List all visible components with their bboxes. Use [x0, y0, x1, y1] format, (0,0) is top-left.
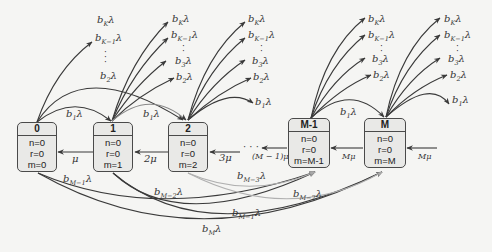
state-m: m=1	[94, 159, 132, 170]
label-b3-lambda: b3λ	[448, 53, 465, 67]
label-bK1-lambda: bK−1λ	[95, 32, 122, 46]
state-r: r=0	[169, 148, 207, 159]
label-bK-lambda: bKλ	[368, 13, 386, 27]
state-m: m=M	[365, 155, 405, 166]
state-n: n=0	[94, 137, 132, 148]
label-bK-lambda: bKλ	[444, 13, 462, 27]
label-b1-lambda: b1λ	[452, 94, 469, 108]
state-n: n=0	[365, 133, 405, 144]
label-M-1-mu: (M − 1)μ	[252, 152, 289, 161]
label-bM-2-lambda: bM−2λ	[154, 186, 183, 200]
label-b2-lambda: b2λ	[373, 69, 390, 83]
arrow-0-to-2	[37, 88, 183, 122]
state-r: r=0	[365, 144, 405, 155]
horizontal-ellipsis: · · ·	[243, 141, 259, 152]
label-b3-lambda: b3λ	[175, 55, 192, 69]
vertical-ellipsis: ··	[260, 44, 263, 54]
label-b3-lambda: b3λ	[372, 53, 389, 67]
state-m: m=M-1	[289, 155, 329, 166]
state-r: r=0	[289, 144, 329, 155]
label-b2-lambda: b2λ	[100, 70, 117, 84]
label-mu: μ	[72, 153, 79, 164]
label-3mu: 3μ	[219, 152, 232, 163]
state-m: m=0	[18, 159, 56, 170]
label-M-mu: Mμ	[342, 152, 355, 161]
label-bM-3-lambda: bM−3λ	[237, 170, 266, 184]
state-title: 0	[18, 123, 56, 136]
label-M-mu-incoming: Mμ	[418, 152, 431, 161]
label-bK-lambda: bKλ	[248, 13, 266, 27]
label-bK-lambda: bKλ	[172, 13, 190, 27]
state-r: r=0	[94, 148, 132, 159]
state-n: n=0	[289, 133, 329, 144]
vertical-ellipsis: ···	[104, 50, 107, 65]
state-0: 0 n=0 r=0 m=0	[17, 122, 57, 172]
arrow-0-bK1	[37, 42, 92, 122]
markov-chain-diagram: 0 n=0 r=0 m=0 1 n=0 r=0 m=1 2 n=0 r=0 m=…	[0, 0, 492, 252]
label-bK-lambda: bKλ	[97, 14, 115, 28]
state-2: 2 n=0 r=0 m=2	[168, 122, 208, 172]
state-n: n=0	[169, 137, 207, 148]
label-b1-lambda: b1λ	[255, 96, 272, 110]
label-b2-lambda: b2λ	[450, 69, 467, 83]
state-n: n=0	[18, 137, 56, 148]
label-b2-lambda: b2λ	[176, 71, 193, 85]
state-M-1: M-1 n=0 r=0 m=M-1	[288, 118, 330, 168]
label-2mu: 2μ	[144, 153, 157, 164]
label-bM-1-lambda: bM−1λ	[63, 173, 92, 187]
state-title: M-1	[289, 119, 329, 132]
label-b1-lambda-1-2: b1λ	[143, 108, 160, 122]
state-M: M n=0 r=0 m=M	[364, 118, 406, 168]
state-title: 2	[169, 123, 207, 136]
label-b1-lambda-0-1: b1λ	[66, 108, 83, 122]
label-bM-lambda: bMλ	[202, 223, 221, 237]
state-m: m=2	[169, 159, 207, 170]
state-title: M	[365, 119, 405, 132]
label-bM-1-lambda-M: bM−1λ	[232, 207, 261, 221]
state-1: 1 n=0 r=0 m=1	[93, 122, 133, 172]
label-b2-lambda: b2λ	[253, 71, 270, 85]
label-b1-lambda-M1-M: b1λ	[340, 106, 357, 120]
state-title: 1	[94, 123, 132, 136]
state-r: r=0	[18, 148, 56, 159]
label-b3-lambda: b3λ	[252, 55, 269, 69]
vertical-ellipsis: ··	[182, 44, 185, 54]
label-bM-2-lambda-M: bM−2λ	[293, 188, 322, 202]
